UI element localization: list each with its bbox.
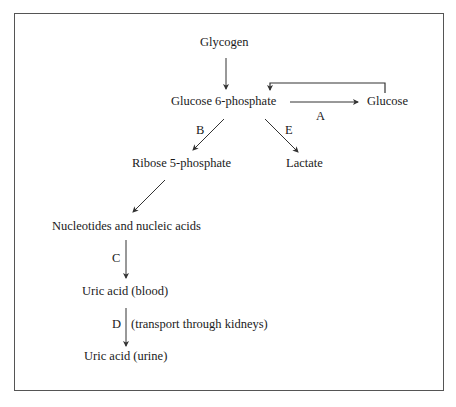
node-ribose-5-phosphate: Ribose 5-phosphate bbox=[132, 157, 231, 170]
step-label-b: B bbox=[196, 124, 204, 137]
step-label-d: D bbox=[112, 318, 121, 331]
node-uric-acid-urine: Uric acid (urine) bbox=[84, 350, 167, 363]
node-glycogen: Glycogen bbox=[200, 36, 249, 49]
step-label-c: C bbox=[112, 252, 120, 265]
annotation-transport-kidneys: (transport through kidneys) bbox=[131, 318, 268, 331]
step-label-a: A bbox=[316, 110, 325, 123]
arrow-glucose-to-g6p bbox=[270, 83, 385, 93]
arrow-e-g6p-to-lactate bbox=[265, 119, 298, 152]
node-glucose-6-phosphate: Glucose 6-phosphate bbox=[171, 95, 276, 108]
node-uric-acid-blood: Uric acid (blood) bbox=[82, 285, 168, 298]
node-lactate: Lactate bbox=[286, 157, 323, 170]
arrow-layer bbox=[0, 0, 456, 407]
arrow-ribose-to-nucleotides bbox=[133, 180, 165, 212]
step-label-e: E bbox=[285, 124, 293, 137]
node-nucleotides: Nucleotides and nucleic acids bbox=[52, 220, 201, 233]
node-glucose: Glucose bbox=[367, 95, 408, 108]
